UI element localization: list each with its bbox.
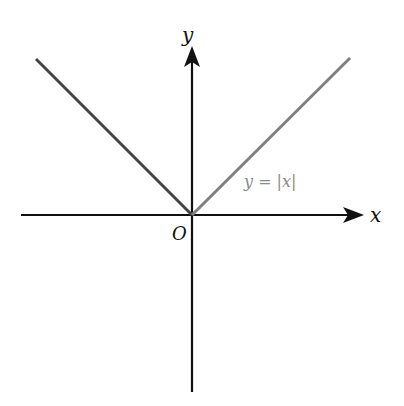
graph-abs-function: y x O y = |x| — [0, 0, 404, 406]
y-axis-label: y — [181, 23, 194, 47]
x-axis-label: x — [370, 203, 381, 227]
left-branch — [36, 59, 192, 215]
curve-label: y = |x| — [243, 172, 296, 191]
right-branch — [192, 58, 350, 215]
origin-label: O — [172, 223, 187, 244]
